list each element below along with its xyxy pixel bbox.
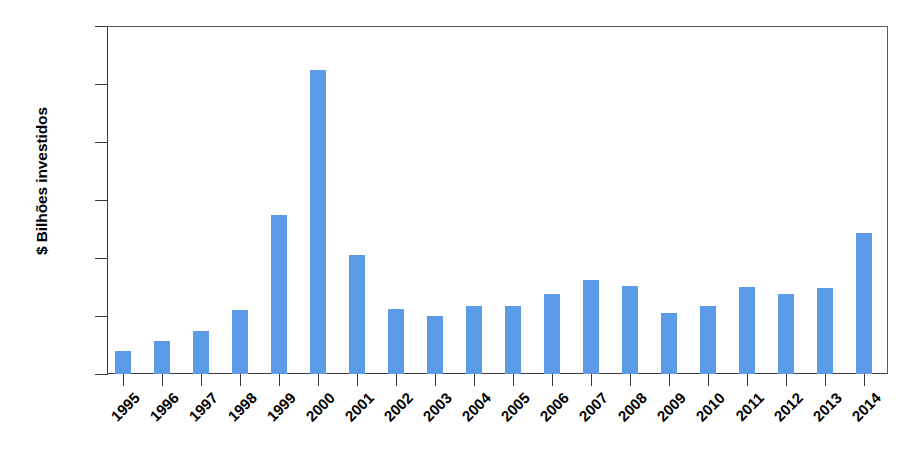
x-tick-2012 <box>786 374 787 386</box>
x-tick-2008 <box>630 374 631 386</box>
y-tick-mark <box>95 316 108 317</box>
x-axis-label-2003: 2003 <box>412 389 455 432</box>
x-tick-2011 <box>747 374 748 386</box>
x-axis-label-1999: 1999 <box>256 389 299 432</box>
x-axis-label-2007: 2007 <box>568 389 611 432</box>
y-tick-mark <box>95 258 108 259</box>
x-tick-2004 <box>474 374 475 386</box>
y-tick-mark <box>95 200 108 201</box>
x-axis-label-2010: 2010 <box>685 389 728 432</box>
x-tick-2014 <box>864 374 865 386</box>
x-axis-label-2002: 2002 <box>373 389 416 432</box>
y-tick-mark <box>95 26 108 27</box>
x-axis-label-1995: 1995 <box>99 389 142 432</box>
y-tick-mark <box>95 84 108 85</box>
x-tick-2005 <box>513 374 514 386</box>
x-axis-label-2006: 2006 <box>529 389 572 432</box>
x-tick-2009 <box>669 374 670 386</box>
x-tick-2002 <box>396 374 397 386</box>
plot-area <box>107 26 888 374</box>
x-axis-label-1998: 1998 <box>217 389 260 432</box>
x-tick-1995 <box>123 374 124 386</box>
x-axis-label-2012: 2012 <box>763 389 806 432</box>
x-axis-label-2011: 2011 <box>724 389 767 432</box>
x-tick-1999 <box>279 374 280 386</box>
x-axis-label-1996: 1996 <box>138 389 181 432</box>
x-tick-2013 <box>825 374 826 386</box>
x-tick-2000 <box>318 374 319 386</box>
x-axis-label-2009: 2009 <box>646 389 689 432</box>
x-tick-2001 <box>357 374 358 386</box>
x-axis-label-2001: 2001 <box>334 389 377 432</box>
x-axis-label-2000: 2000 <box>295 389 338 432</box>
x-tick-1997 <box>201 374 202 386</box>
y-tick-mark <box>95 142 108 143</box>
x-tick-2010 <box>708 374 709 386</box>
x-tick-1996 <box>162 374 163 386</box>
x-tick-1998 <box>240 374 241 386</box>
x-tick-2007 <box>591 374 592 386</box>
bar-chart: $ Bilhões investidos 020406080100120 199… <box>0 0 905 450</box>
x-axis-label-2008: 2008 <box>607 389 650 432</box>
y-tick-mark <box>95 374 108 375</box>
x-axis-label-1997: 1997 <box>178 389 221 432</box>
x-axis-label-2005: 2005 <box>490 389 533 432</box>
x-axis-label-2004: 2004 <box>451 389 494 432</box>
x-tick-2003 <box>435 374 436 386</box>
x-axis-label-2014: 2014 <box>841 389 884 432</box>
x-axis-label-2013: 2013 <box>802 389 845 432</box>
y-axis-title: $ Bilhões investidos <box>33 61 51 301</box>
x-tick-2006 <box>552 374 553 386</box>
